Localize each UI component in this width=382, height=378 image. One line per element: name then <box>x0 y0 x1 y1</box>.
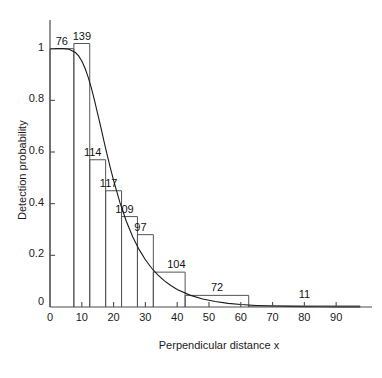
bar-count-label: 139 <box>62 30 102 42</box>
bar-count-label: 72 <box>197 281 237 293</box>
bar-count-label: 104 <box>156 258 196 270</box>
axis-lines <box>50 20 372 307</box>
histogram-bars <box>50 44 360 308</box>
histogram-bar <box>153 272 185 307</box>
bar-count-label: 117 <box>89 177 129 189</box>
bar-count-label: 11 <box>284 288 324 300</box>
bar-count-label: 109 <box>105 203 145 215</box>
y-tick-label: 0.8 <box>29 92 44 104</box>
bar-count-label: 97 <box>120 221 160 233</box>
bar-count-label: 114 <box>73 146 113 158</box>
histogram-bar <box>74 44 90 308</box>
y-tick-label: 0.4 <box>29 196 44 208</box>
histogram-bar <box>137 235 153 307</box>
x-tick-label: 90 <box>316 311 356 323</box>
histogram-bar <box>50 49 74 307</box>
y-tick-label: 0.2 <box>29 247 44 259</box>
detection-function-figure: Detection probability Perpendicular dist… <box>0 0 382 378</box>
y-tick-label: 0.6 <box>29 144 44 156</box>
y-axis-title: Detection probability <box>16 120 28 220</box>
x-axis-title: Perpendicular distance x <box>28 339 382 351</box>
y-tick-label: 0 <box>38 295 44 307</box>
